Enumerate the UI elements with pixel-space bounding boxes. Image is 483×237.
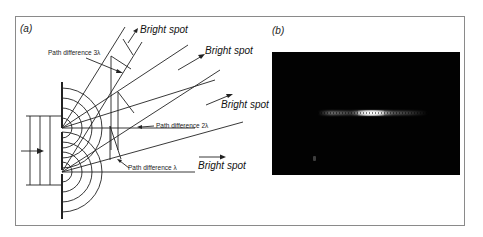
bright-spot-label-1: Bright spot [140,24,188,35]
fringe-spacing [318,112,428,114]
path-difference-3-label: Path difference 3λ [48,49,100,56]
path-difference-2-label: Path difference 2λ [156,122,208,129]
noise-speck [313,156,316,161]
bright-spot-label-3: Bright spot [221,99,269,110]
bright-spot-label-2: Bright spot [205,45,253,56]
panel-a-label: (a) [20,23,32,34]
path-difference-1-label: Path difference λ [128,164,177,171]
panel-b-label: (b) [272,25,284,36]
bright-spot-label-4: Bright spot [198,160,246,171]
interference-photo [272,52,460,175]
